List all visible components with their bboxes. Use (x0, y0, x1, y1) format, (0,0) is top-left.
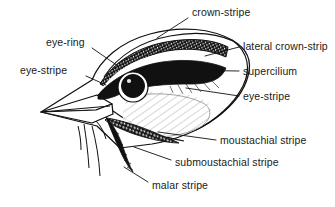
label-submoustachial-stripe: submoustachial stripe (175, 157, 279, 168)
label-lateral-crown-stripe: lateral crown-strip (243, 41, 328, 52)
leader-malar-stripe (124, 167, 148, 182)
diagram-canvas: crown-stripe lateral crown-strip superci… (0, 0, 335, 207)
label-supercilium: supercilium (243, 66, 297, 77)
label-eye-ring: eye-ring (46, 37, 85, 48)
head-outline-group (41, 29, 249, 176)
label-eye-stripe-right: eye-stripe (243, 91, 290, 102)
label-crown-stripe: crown-stripe (192, 7, 250, 18)
eye-pupil (122, 75, 145, 98)
label-malar-stripe: malar stripe (152, 180, 208, 191)
throat-feather-lines (78, 124, 100, 176)
leader-submoustachial-stripe (134, 147, 171, 160)
label-eye-stripe-left: eye-stripe (20, 65, 67, 76)
bird-head-illustration (0, 0, 335, 207)
eye-highlight (127, 79, 131, 83)
label-moustachial-stripe: moustachial stripe (220, 135, 306, 146)
eye-group (118, 72, 148, 102)
